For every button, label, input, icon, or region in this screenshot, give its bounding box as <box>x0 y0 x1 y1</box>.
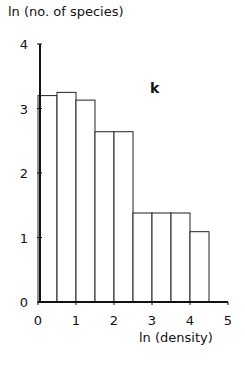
histogram-bar <box>171 213 190 302</box>
histogram-bar <box>133 213 152 302</box>
x-tick-label: 2 <box>110 313 118 328</box>
histogram-bar <box>114 132 133 302</box>
histogram-bar <box>76 100 95 302</box>
x-tick-label: 1 <box>72 313 80 328</box>
histogram-bar <box>190 232 209 302</box>
histogram-bar <box>95 132 114 302</box>
x-tick-label: 5 <box>224 313 232 328</box>
histogram-bar <box>57 92 76 302</box>
x-tick-label: 0 <box>34 313 42 328</box>
x-tick-label: 3 <box>148 313 156 328</box>
histogram-plot: 01234012345 <box>0 0 245 370</box>
y-tick-label: 4 <box>20 37 28 52</box>
x-tick-label: 4 <box>186 313 194 328</box>
y-tick-label: 3 <box>20 102 28 117</box>
y-tick-label: 0 <box>20 295 28 310</box>
y-tick-label: 1 <box>20 231 28 246</box>
y-tick-label: 2 <box>20 166 28 181</box>
histogram-bar <box>152 213 171 302</box>
